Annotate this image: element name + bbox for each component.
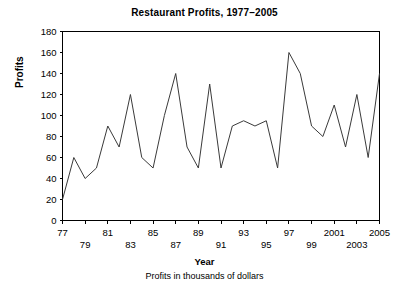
svg-text:120: 120: [41, 89, 57, 100]
profits-line-series: [63, 53, 380, 200]
svg-text:2005: 2005: [369, 227, 390, 238]
svg-text:99: 99: [306, 239, 317, 250]
svg-text:81: 81: [102, 227, 113, 238]
svg-text:97: 97: [284, 227, 295, 238]
svg-text:100: 100: [41, 110, 57, 121]
svg-text:160: 160: [41, 47, 57, 58]
svg-text:85: 85: [148, 227, 159, 238]
x-axis-tick-labels: 777981838587899193959799200120032005: [57, 227, 390, 250]
chart-caption: Profits in thousands of dollars: [0, 271, 409, 281]
svg-text:40: 40: [46, 173, 57, 184]
svg-text:79: 79: [80, 239, 91, 250]
svg-text:140: 140: [41, 68, 57, 79]
y-axis-ticks: 020406080100120140160180: [41, 26, 63, 226]
svg-text:2001: 2001: [324, 227, 345, 238]
svg-text:89: 89: [193, 227, 204, 238]
svg-text:87: 87: [170, 239, 181, 250]
svg-text:83: 83: [125, 239, 136, 250]
x-axis-label: Year: [0, 256, 409, 267]
svg-text:80: 80: [46, 131, 57, 142]
svg-text:91: 91: [216, 239, 227, 250]
svg-text:180: 180: [41, 26, 57, 37]
svg-text:95: 95: [261, 239, 272, 250]
svg-text:20: 20: [46, 194, 57, 205]
svg-text:2003: 2003: [346, 239, 367, 250]
svg-text:60: 60: [46, 152, 57, 163]
plot-area: 020406080100120140160180 777981838587899…: [0, 0, 409, 288]
chart-figure: Restaurant Profits, 1977–2005 Profits 02…: [0, 0, 409, 288]
svg-text:77: 77: [57, 227, 68, 238]
svg-text:0: 0: [51, 215, 56, 226]
svg-text:93: 93: [238, 227, 249, 238]
